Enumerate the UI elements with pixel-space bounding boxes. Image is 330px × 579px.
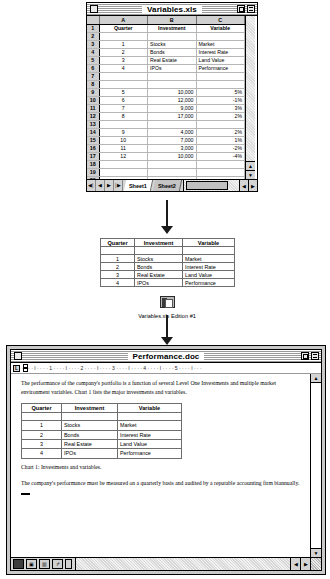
row-header[interactable]: 9: [87, 88, 99, 96]
scroll-up-arrow-icon[interactable]: ▲: [246, 161, 255, 170]
row-header[interactable]: 8: [87, 80, 99, 88]
cell-A9[interactable]: 5: [99, 88, 148, 96]
cell-C13[interactable]: [196, 120, 245, 128]
row-header[interactable]: 2: [87, 32, 99, 40]
cell-B11[interactable]: 9,000: [148, 104, 197, 112]
cell-C18[interactable]: [196, 160, 245, 168]
cell-C11[interactable]: 3%: [196, 104, 245, 112]
column-header-c[interactable]: C: [196, 16, 245, 24]
cell-C12[interactable]: 2%: [196, 112, 245, 120]
cell-B2[interactable]: [148, 32, 197, 40]
cell-B16[interactable]: 3,000: [148, 144, 197, 152]
cell-B18[interactable]: [148, 160, 197, 168]
doc-scroll-down-arrow-icon[interactable]: ▼: [311, 548, 321, 557]
nav-next-sheet-icon[interactable]: ▶: [105, 180, 114, 191]
cell-B15[interactable]: 7,000: [148, 136, 197, 144]
row-header[interactable]: 4: [87, 48, 99, 56]
document-page[interactable]: The performance of the company's portfol…: [11, 374, 310, 557]
cell-B6[interactable]: IPOs: [148, 64, 197, 72]
close-box-icon[interactable]: [90, 5, 98, 13]
cell-C6[interactable]: Performance: [196, 64, 245, 72]
hscroll-thumb[interactable]: [186, 181, 228, 190]
cell-A16[interactable]: 11: [99, 144, 148, 152]
cell-B20[interactable]: [148, 176, 197, 179]
cell-B1[interactable]: Investment: [148, 24, 197, 32]
cell-A4[interactable]: 2: [99, 48, 148, 56]
row-header[interactable]: 11: [87, 104, 99, 112]
document-titlebar[interactable]: Performance.doc: [11, 350, 321, 363]
cell-C19[interactable]: [196, 168, 245, 176]
vscroll-track[interactable]: [246, 16, 255, 161]
row-header[interactable]: 5: [87, 56, 99, 64]
cell-C14[interactable]: 2%: [196, 128, 245, 136]
zoom-box-icon[interactable]: [237, 5, 245, 13]
spreadsheet-titlebar[interactable]: Variables.xls: [87, 3, 257, 16]
doc-scroll-up-arrow-icon[interactable]: ▲: [311, 374, 321, 383]
cell-C9[interactable]: 5%: [196, 88, 245, 96]
cell-A18[interactable]: [99, 160, 148, 168]
cell-B4[interactable]: Bonds: [148, 48, 197, 56]
cell-A6[interactable]: 4: [99, 64, 148, 72]
cell-B17[interactable]: 10,000: [148, 152, 197, 160]
cell-C3[interactable]: Market: [196, 40, 245, 48]
cell-A11[interactable]: 7: [99, 104, 148, 112]
window-resize-grow-box[interactable]: [310, 558, 321, 570]
row-header[interactable]: 13: [87, 120, 99, 128]
cell-B19[interactable]: [148, 168, 197, 176]
view-normal-button[interactable]: [13, 559, 24, 569]
cell-A8[interactable]: [99, 80, 148, 88]
row-header[interactable]: 19: [87, 168, 99, 176]
cell-C5[interactable]: Land Value: [196, 56, 245, 64]
cell-C8[interactable]: [196, 80, 245, 88]
row-header[interactable]: 12: [87, 112, 99, 120]
sheet-tab-sheet1[interactable]: Sheet1: [124, 180, 153, 191]
row-header[interactable]: 14: [87, 128, 99, 136]
cell-A14[interactable]: 9: [99, 128, 148, 136]
spreadsheet-horizontal-scrollbar[interactable]: [183, 180, 239, 191]
column-header-a[interactable]: A: [99, 16, 148, 24]
cell-C1[interactable]: Variable: [196, 24, 245, 32]
nav-last-sheet-icon[interactable]: │▶: [114, 180, 123, 191]
cell-A3[interactable]: 1: [99, 40, 148, 48]
cell-A10[interactable]: 6: [99, 96, 148, 104]
row-header[interactable]: 15: [87, 136, 99, 144]
row-header[interactable]: 10: [87, 96, 99, 104]
cell-A19[interactable]: [99, 168, 148, 176]
cell-A7[interactable]: [99, 72, 148, 80]
collapse-box-icon[interactable]: [311, 352, 319, 360]
scroll-right-arrow-icon[interactable]: ▶: [248, 180, 257, 191]
cell-B7[interactable]: [148, 72, 197, 80]
cell-A2[interactable]: [99, 32, 148, 40]
row-header[interactable]: 18: [87, 160, 99, 168]
view-outline-button[interactable]: ▥: [39, 559, 50, 569]
cell-C10[interactable]: -1%: [196, 96, 245, 104]
view-page-layout-button[interactable]: ▣: [26, 559, 37, 569]
tab-stop-selector-icon[interactable]: [13, 365, 20, 372]
row-header[interactable]: 16: [87, 144, 99, 152]
cell-C15[interactable]: 1%: [196, 136, 245, 144]
zoom-box-icon[interactable]: [301, 352, 309, 360]
cell-C4[interactable]: Interest Rate: [196, 48, 245, 56]
cell-C7[interactable]: [196, 72, 245, 80]
cell-C2[interactable]: [196, 32, 245, 40]
row-header[interactable]: 7: [87, 72, 99, 80]
document-vertical-scrollbar[interactable]: ▲ ▼: [310, 374, 321, 557]
cell-A13[interactable]: [99, 120, 148, 128]
sheet-tab-sheet2[interactable]: Sheet2: [153, 180, 182, 191]
nav-prev-sheet-icon[interactable]: ◀: [96, 180, 105, 191]
cell-B9[interactable]: 10,000: [148, 88, 197, 96]
doc-scroll-left-arrow-icon[interactable]: ◀: [290, 558, 300, 570]
view-notes-button[interactable]: ↱: [52, 559, 63, 569]
view-extra-button[interactable]: [65, 559, 72, 569]
row-header[interactable]: 6: [87, 64, 99, 72]
cell-A17[interactable]: 12: [99, 152, 148, 160]
row-header[interactable]: 17: [87, 152, 99, 160]
cell-B5[interactable]: Real Estate: [148, 56, 197, 64]
cell-A20[interactable]: [99, 176, 148, 179]
row-header[interactable]: 20: [87, 176, 99, 179]
cell-B3[interactable]: Stocks: [148, 40, 197, 48]
cell-B10[interactable]: 12,000: [148, 96, 197, 104]
scroll-down-arrow-icon[interactable]: ▼: [246, 170, 255, 179]
column-header-b[interactable]: B: [148, 16, 197, 24]
cell-A5[interactable]: 3: [99, 56, 148, 64]
